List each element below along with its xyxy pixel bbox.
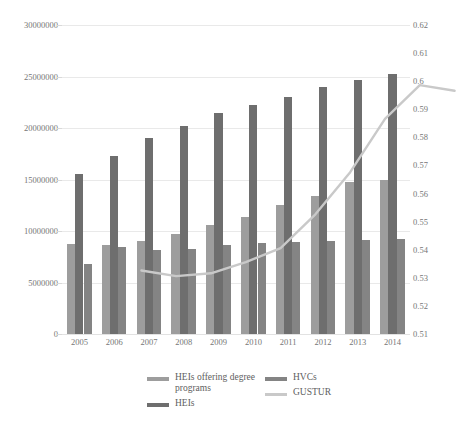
chart-legend: HEIs offering degree programsHEIs HVCsGU…: [0, 372, 438, 434]
y-axis-tick-label: 15000000: [0, 176, 58, 185]
x-axis-tick-label: 2005: [62, 338, 97, 347]
bar: [75, 174, 83, 334]
legend-swatch-icon: [265, 377, 287, 381]
legend-entry[interactable]: HEIs: [147, 398, 267, 409]
x-axis-tick-label: 2011: [271, 338, 306, 347]
bar: [110, 156, 118, 334]
y2-axis-tick-label: 0.62: [413, 21, 453, 30]
plot-area: [62, 25, 410, 334]
x-axis-tick-label: 2013: [340, 338, 375, 347]
x-axis-tick-label: 2008: [166, 338, 201, 347]
y-axis-tick-label: 0: [0, 330, 58, 339]
x-axis-tick-label: 2012: [306, 338, 341, 347]
legend-label: HVCs: [293, 372, 317, 383]
legend-swatch-icon: [147, 377, 169, 381]
legend-swatch-icon: [265, 393, 287, 396]
legend-column-right: HVCsGUSTUR: [265, 372, 331, 402]
left-axis-labels: 0500000010000000150000002000000025000000…: [0, 25, 58, 334]
legend-label: HEIs: [175, 398, 195, 409]
x-axis-tick-label: 2010: [236, 338, 271, 347]
gustur-line-layer: [124, 50, 460, 359]
x-axis-baseline: [62, 334, 410, 335]
legend-swatch-icon: [147, 403, 169, 407]
y-axis-tick-label: 30000000: [0, 21, 58, 30]
y-axis-tick-label: 25000000: [0, 73, 58, 82]
x-axis-tick-label: 2006: [97, 338, 132, 347]
x-axis-tick-label: 2014: [375, 338, 410, 347]
legend-label: GUSTUR: [293, 387, 331, 398]
legend-entry[interactable]: HEIs offering degree programs: [147, 372, 267, 394]
x-axis-tick-label: 2009: [201, 338, 236, 347]
bar: [102, 245, 110, 334]
legend-entry[interactable]: HVCs: [265, 372, 331, 383]
x-axis-tick-label: 2007: [132, 338, 167, 347]
y-axis-tick-label: 5000000: [0, 279, 58, 288]
gustur-line: [141, 85, 454, 276]
bar-group: [62, 25, 97, 334]
legend-label: HEIs offering degree programs: [175, 372, 267, 394]
legend-column-left: HEIs offering degree programsHEIs: [147, 372, 267, 413]
y-axis-tick-label: 10000000: [0, 227, 58, 236]
bar: [67, 244, 75, 334]
legend-entry[interactable]: GUSTUR: [265, 387, 331, 398]
y-axis-tick-label: 20000000: [0, 124, 58, 133]
bar: [84, 264, 92, 334]
